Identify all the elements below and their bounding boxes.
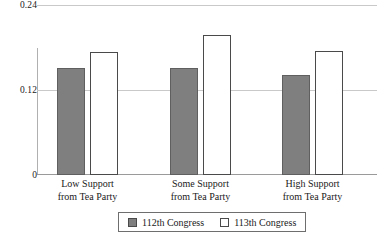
bar-low-support-112th	[57, 68, 85, 175]
x-axis-label-high-support: High Support from Tea Party	[262, 177, 363, 203]
chart-legend: 112th Congress 113th Congress	[118, 212, 306, 232]
bar-high-support-112th	[282, 75, 310, 175]
bar-chart: 0.24 0.12 0 Low Support from Tea Party S…	[0, 0, 383, 238]
x-axis-label-some-support-line2: from Tea Party	[150, 190, 251, 203]
x-axis-label-low-support-line2: from Tea Party	[37, 190, 138, 203]
plot-area	[37, 5, 377, 175]
y-axis-tick-label-top: 0.24	[4, 0, 37, 10]
gridline-0.24	[37, 5, 377, 6]
y-axis-tick-labels: 0.24 0.12 0	[0, 0, 37, 238]
x-axis-label-low-support: Low Support from Tea Party	[37, 177, 138, 203]
bar-low-support-113th	[90, 52, 118, 175]
bar-high-support-113th	[315, 51, 343, 175]
legend-label-113th-congress: 113th Congress	[234, 217, 296, 228]
filled-gray-swatch-icon	[128, 218, 137, 227]
bar-some-support-113th	[203, 35, 231, 175]
x-axis-label-high-support-line2: from Tea Party	[262, 190, 363, 203]
legend-item-112th-congress: 112th Congress	[128, 217, 204, 228]
x-axis-label-some-support-line1: Some Support	[150, 177, 251, 190]
x-axis-category-labels: Low Support from Tea Party Some Support …	[37, 177, 377, 207]
legend-label-112th-congress: 112th Congress	[142, 217, 204, 228]
x-axis-label-some-support: Some Support from Tea Party	[150, 177, 251, 203]
y-axis-tick-label-bottom: 0	[4, 170, 37, 180]
outlined-white-swatch-icon	[220, 218, 229, 227]
legend-item-113th-congress: 113th Congress	[220, 217, 296, 228]
x-axis-label-low-support-line1: Low Support	[37, 177, 138, 190]
bar-some-support-112th	[170, 68, 198, 175]
x-axis-label-high-support-line1: High Support	[262, 177, 363, 190]
y-axis-tick-label-middle: 0.12	[4, 85, 37, 95]
